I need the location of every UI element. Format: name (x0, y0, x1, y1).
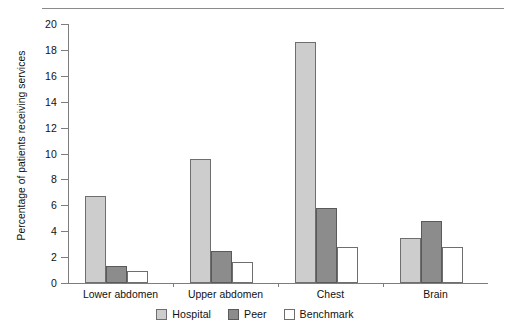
y-axis-tick (61, 50, 68, 51)
bar-chest-peer (316, 208, 337, 283)
y-axis-tick (61, 76, 68, 77)
y-axis-tick-label: 18 (34, 45, 57, 55)
y-axis-tick-label: 12 (34, 123, 57, 133)
legend-swatch-peer-icon (228, 309, 239, 320)
legend-label-benchmark: Benchmark (300, 308, 354, 320)
y-axis-tick (61, 205, 68, 206)
y-axis-tick-label: 6 (34, 200, 57, 210)
y-axis-tick-label-text: 20 (34, 19, 57, 29)
y-axis-tick-label: 0 (34, 278, 57, 288)
y-axis-tick-label-text: 18 (34, 45, 57, 55)
y-axis-tick (61, 231, 68, 232)
y-axis-tick-label: 14 (34, 97, 57, 107)
y-axis-tick-label-text: 8 (34, 174, 57, 184)
y-axis-tick-label: 10 (34, 149, 57, 159)
x-axis-group-tick (173, 283, 174, 287)
y-axis-title: Percentage of patients receiving service… (16, 36, 27, 256)
y-axis-tick (61, 102, 68, 103)
bar-upper-abdomen-hospital (190, 159, 211, 283)
y-axis-tick-label: 20 (34, 19, 57, 29)
y-axis-tick-label-text: 14 (34, 97, 57, 107)
plot-area (68, 24, 488, 283)
y-axis-tick-label: 8 (34, 174, 57, 184)
y-axis-tick (61, 283, 68, 284)
bar-chest-benchmark (337, 247, 358, 283)
bar-lower-abdomen-benchmark (127, 271, 148, 283)
legend-item-hospital: Hospital (156, 308, 211, 320)
bar-lower-abdomen-hospital (85, 196, 106, 283)
legend-swatch-benchmark-icon (284, 309, 295, 320)
y-axis-tick-label-text: 12 (34, 123, 57, 133)
y-axis-tick (61, 154, 68, 155)
x-axis-label-upper-abdomen: Upper abdomen (173, 289, 278, 300)
bar-upper-abdomen-benchmark (232, 262, 253, 283)
legend-swatch-hospital-icon (156, 309, 167, 320)
legend-label-peer: Peer (244, 308, 267, 320)
chart-legend: HospitalPeerBenchmark (0, 308, 510, 320)
y-axis-tick-label-text: 6 (34, 200, 57, 210)
legend-item-peer: Peer (228, 308, 267, 320)
y-axis-tick (61, 24, 68, 25)
chart-figure: Percentage of patients receiving service… (0, 0, 510, 334)
x-axis-group-tick (278, 283, 279, 287)
top-divider-rule (42, 8, 504, 9)
y-axis-tick (61, 128, 68, 129)
x-axis-group-tick (383, 283, 384, 287)
y-axis-tick-label: 16 (34, 71, 57, 81)
x-axis-label-brain: Brain (383, 289, 488, 300)
x-axis-label-lower-abdomen: Lower abdomen (68, 289, 173, 300)
y-axis-tick-label-text: 2 (34, 252, 57, 262)
bar-lower-abdomen-peer (106, 266, 127, 283)
y-axis-tick (61, 257, 68, 258)
legend-label-hospital: Hospital (172, 308, 211, 320)
y-axis-tick-label-text: 4 (34, 226, 57, 236)
x-axis-label-chest: Chest (278, 289, 383, 300)
bar-upper-abdomen-peer (211, 251, 232, 283)
bar-brain-hospital (400, 238, 421, 283)
bar-chest-hospital (295, 42, 316, 283)
bar-brain-peer (421, 221, 442, 283)
y-axis-tick (61, 179, 68, 180)
y-axis-tick-label: 4 (34, 226, 57, 236)
y-axis-tick-label: 2 (34, 252, 57, 262)
y-axis-tick-label-text: 10 (34, 149, 57, 159)
legend-item-benchmark: Benchmark (284, 308, 354, 320)
y-axis-tick-label-text: 0 (34, 278, 57, 288)
bar-brain-benchmark (442, 247, 463, 283)
y-axis-tick-label-text: 16 (34, 71, 57, 81)
